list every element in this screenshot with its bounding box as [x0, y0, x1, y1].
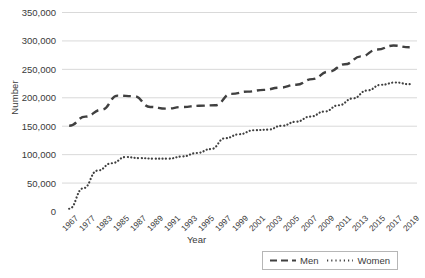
y-tick-label: 350,000: [22, 7, 56, 18]
legend-entry-men: Men: [270, 255, 318, 266]
y-tick-label: 300,000: [22, 35, 56, 46]
x-axis-title-text: Year: [187, 234, 206, 245]
y-tick-label: 100,000: [22, 149, 56, 160]
line-chart-figure: Number 050,000100,000150,000200,000250,0…: [0, 0, 425, 278]
chart-legend: Men Women: [262, 251, 398, 270]
data-series-group: [69, 46, 410, 209]
y-tick-label: 150,000: [22, 120, 56, 131]
gridlines: [62, 13, 417, 212]
legend-entry-women: Women: [327, 255, 390, 266]
legend-label-women: Women: [357, 255, 390, 266]
y-tick-label: 50,000: [27, 177, 56, 188]
legend-swatch-women: [327, 257, 353, 264]
legend-swatch-men: [270, 257, 296, 264]
plot-area: [62, 12, 417, 211]
y-tick-label: 0: [51, 206, 56, 217]
y-tick-label: 200,000: [22, 92, 56, 103]
y-tick-label: 250,000: [22, 63, 56, 74]
legend-label-men: Men: [300, 255, 318, 266]
y-axis-tick-labels: 050,000100,000150,000200,000250,000300,0…: [6, 12, 60, 211]
series-line-men: [69, 46, 410, 126]
plot-svg: [62, 12, 417, 211]
x-axis-title: Year: [0, 234, 425, 245]
series-line-women: [69, 83, 410, 209]
